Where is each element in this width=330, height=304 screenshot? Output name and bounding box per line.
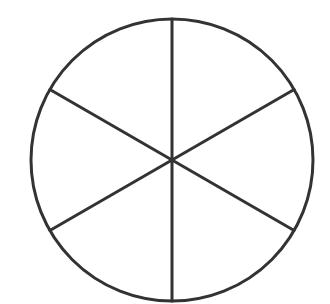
spoke-line	[50, 90, 172, 161]
spoke-line	[50, 160, 172, 231]
spoke-line	[172, 160, 294, 231]
six-sector-circle-diagram	[0, 0, 330, 304]
spokes	[50, 19, 294, 301]
spoke-line	[172, 90, 294, 161]
